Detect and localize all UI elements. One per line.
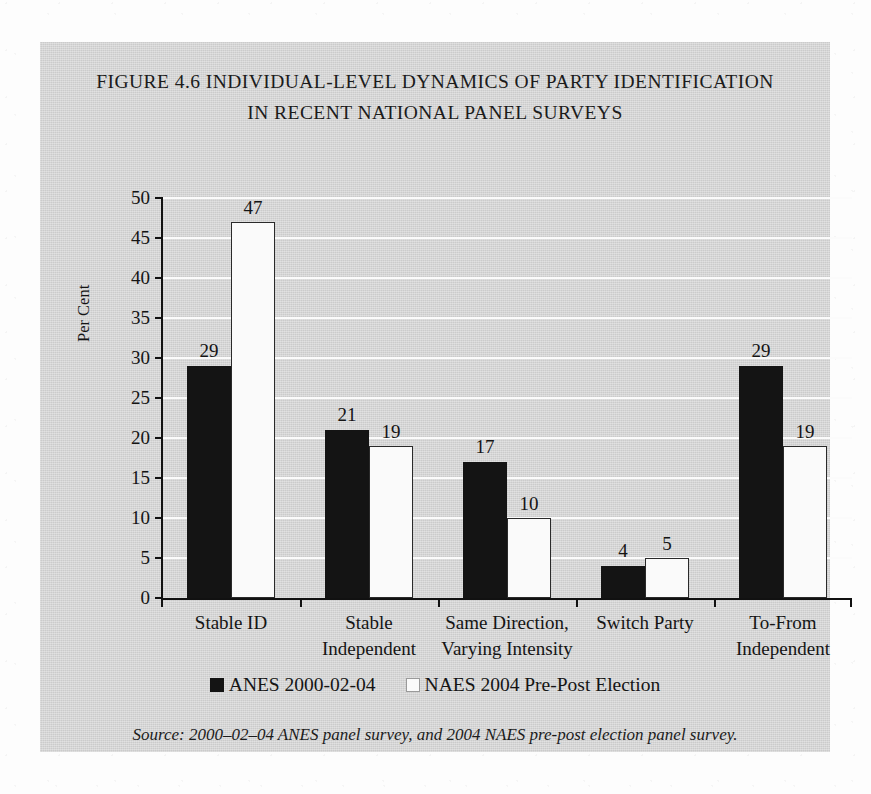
plot-area: 294721191710452919 05101520253035404550	[162, 198, 852, 598]
x-axis-tick	[161, 598, 163, 607]
source-note: Source: 2000–02–04 ANES panel survey, an…	[40, 725, 830, 745]
figure-panel: FIGURE 4.6 INDIVIDUAL-LEVEL DYNAMICS OF …	[40, 42, 830, 752]
bar[interactable]: 21	[325, 430, 369, 598]
y-axis-tick-label: 40	[131, 267, 150, 289]
y-axis-tick-label: 15	[131, 467, 150, 489]
y-axis-tick-label: 35	[131, 307, 150, 329]
x-axis-tick	[850, 598, 852, 607]
x-axis-tick	[300, 598, 302, 607]
y-axis-tick-label: 50	[131, 187, 150, 209]
x-axis-line	[161, 598, 852, 600]
figure-title-line-1: FIGURE 4.6 INDIVIDUAL-LEVEL DYNAMICS OF …	[40, 66, 830, 97]
y-axis-tick-label: 45	[131, 227, 150, 249]
bar-value-label: 21	[338, 404, 357, 426]
y-axis-tick-label: 25	[131, 387, 150, 409]
bar-value-label: 10	[520, 493, 539, 515]
legend-label: ANES 2000-02-04	[229, 674, 376, 696]
bar-value-label: 29	[752, 340, 771, 362]
x-axis-category-label-line: To-From	[702, 610, 864, 636]
bar-group: 1710	[438, 198, 576, 598]
bar-value-label: 29	[200, 340, 219, 362]
x-axis-category-label: To-FromIndependent	[702, 610, 864, 662]
bar[interactable]: 29	[187, 366, 231, 598]
x-axis-tick	[438, 598, 440, 607]
y-axis-tick	[155, 477, 162, 479]
y-axis-tick	[155, 197, 162, 199]
bar-value-label: 19	[382, 421, 401, 443]
bar[interactable]: 17	[463, 462, 507, 598]
y-axis-tick	[155, 357, 162, 359]
chart-legend: ANES 2000-02-04NAES 2004 Pre-Post Electi…	[40, 674, 830, 696]
y-axis-tick	[155, 557, 162, 559]
bar-group: 45	[576, 198, 714, 598]
bar[interactable]: 29	[739, 366, 783, 598]
y-axis-title: Per Cent	[74, 285, 94, 342]
y-axis-tick	[155, 437, 162, 439]
legend-label: NAES 2004 Pre-Post Election	[425, 674, 661, 696]
y-axis-tick-label: 30	[131, 347, 150, 369]
y-axis-tick	[155, 237, 162, 239]
bar[interactable]: 19	[369, 446, 413, 598]
y-axis-tick	[155, 277, 162, 279]
x-axis-category-label-line: Varying Intensity	[426, 636, 588, 662]
legend-swatch-icon	[210, 678, 224, 692]
y-axis-tick-label: 0	[141, 587, 151, 609]
bar[interactable]: 5	[645, 558, 689, 598]
bar-group: 2919	[714, 198, 852, 598]
x-axis-category-labels: Stable IDStableIndependentSame Direction…	[162, 610, 852, 672]
bar[interactable]: 10	[507, 518, 551, 598]
x-axis-category-label-line: Independent	[702, 636, 864, 662]
bar[interactable]: 4	[601, 566, 645, 598]
legend-entry[interactable]: ANES 2000-02-04	[210, 674, 376, 696]
figure-title: FIGURE 4.6 INDIVIDUAL-LEVEL DYNAMICS OF …	[40, 66, 830, 128]
bar-group: 2119	[300, 198, 438, 598]
y-axis-tick	[155, 317, 162, 319]
y-axis-tick-label: 5	[141, 547, 151, 569]
x-axis-tick	[714, 598, 716, 607]
legend-swatch-icon	[406, 678, 420, 692]
y-axis-tick	[155, 397, 162, 399]
bar-value-label: 4	[618, 540, 628, 562]
bar[interactable]: 19	[783, 446, 827, 598]
bar[interactable]: 47	[231, 222, 275, 598]
x-axis-tick	[576, 598, 578, 607]
bar-value-label: 19	[796, 421, 815, 443]
bar-value-label: 17	[476, 436, 495, 458]
y-axis-tick-label: 10	[131, 507, 150, 529]
plot-canvas: 294721191710452919	[162, 198, 852, 598]
legend-entry[interactable]: NAES 2004 Pre-Post Election	[406, 674, 661, 696]
bar-value-label: 5	[662, 533, 672, 555]
y-axis-tick-label: 20	[131, 427, 150, 449]
figure-title-line-2: IN RECENT NATIONAL PANEL SURVEYS	[40, 97, 830, 128]
bar-value-label: 47	[244, 197, 263, 219]
bar-group: 2947	[162, 198, 300, 598]
y-axis-tick	[155, 517, 162, 519]
